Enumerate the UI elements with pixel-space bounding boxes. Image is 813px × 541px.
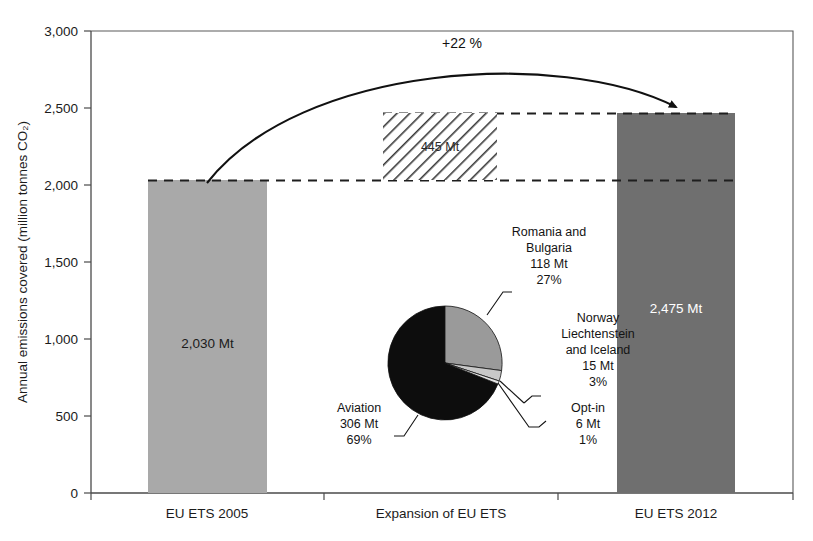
y-axis-title: Annual emissions covered (million tonnes… <box>15 121 30 403</box>
pie-label-optin-line3: 1% <box>579 433 597 447</box>
expansion-hatched-box: 445 Mt <box>383 113 497 180</box>
pie-slice-romania-bulgaria <box>445 306 502 371</box>
pie-label-norway-line1: Norway <box>577 311 620 325</box>
y-tick-1000: 1,000 <box>44 332 78 347</box>
emissions-chart-figure: 0 500 1,000 1,500 2,000 2,500 3,000 Annu… <box>0 0 813 541</box>
y-axis-ticks <box>84 31 91 493</box>
pie-label-optin-line2: 6 Mt <box>576 417 601 431</box>
x-axis-category-labels: EU ETS 2005 Expansion of EU ETS EU ETS 2… <box>166 506 718 521</box>
pie-label-romania-line4: 27% <box>536 273 561 287</box>
pie-label-aviation-line3: 69% <box>346 433 371 447</box>
category-label-right: EU ETS 2012 <box>635 506 718 521</box>
pie-label-norway-line4: 15 Mt <box>582 359 614 373</box>
pie-label-norway-line5: 3% <box>589 375 607 389</box>
expansion-box-label: 445 Mt <box>421 140 460 154</box>
pie-label-norway-line2: Liechtenstein <box>561 327 635 341</box>
bar-eu-ets-2005: 2,030 Mt <box>148 180 267 493</box>
x-axis-ticks <box>91 493 793 500</box>
growth-percentage-label: +22 % <box>442 35 482 51</box>
y-tick-500: 500 <box>55 409 78 424</box>
y-tick-1500: 1,500 <box>44 255 78 270</box>
y-tick-0: 0 <box>70 486 78 501</box>
pie-label-optin-line1: Opt-in <box>571 401 605 415</box>
y-tick-3000: 3,000 <box>44 24 78 39</box>
bar-right-value-label: 2,475 Mt <box>650 301 703 316</box>
category-label-middle: Expansion of EU ETS <box>376 506 507 521</box>
y-axis-tick-labels: 0 500 1,000 1,500 2,000 2,500 3,000 <box>44 24 78 501</box>
pie-label-romania-line3: 118 Mt <box>530 257 568 271</box>
pie-label-opt-in: Opt-in 6 Mt 1% <box>571 401 605 447</box>
pie-label-romania-bulgaria: Romania and Bulgaria 118 Mt 27% <box>512 225 586 287</box>
pie-label-aviation: Aviation 306 Mt 69% <box>337 401 381 447</box>
bar-left-value-label: 2,030 Mt <box>181 336 234 351</box>
y-tick-2000: 2,000 <box>44 178 78 193</box>
pie-label-romania-line2: Bulgaria <box>526 241 572 255</box>
pie-label-norway-line3: and Iceland <box>566 343 631 357</box>
y-tick-2500: 2,500 <box>44 101 78 116</box>
pie-label-romania-line1: Romania and <box>512 225 586 239</box>
category-label-left: EU ETS 2005 <box>166 506 249 521</box>
inset-pie-chart <box>388 306 502 420</box>
bar-eu-ets-2012: 2,475 Mt <box>617 113 735 493</box>
pie-label-aviation-line1: Aviation <box>337 401 381 415</box>
pie-label-aviation-line2: 306 Mt <box>340 417 379 431</box>
